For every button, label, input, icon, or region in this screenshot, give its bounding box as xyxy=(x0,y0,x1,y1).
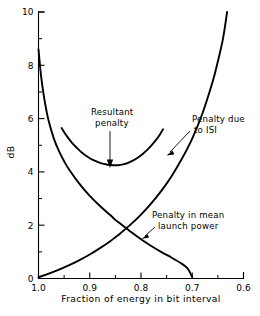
y-tick-label: 6 xyxy=(28,114,34,124)
penalty-vs-fraction-of-energy-chart: 0246810 1.00.90.80.70.6 dB Fraction of e… xyxy=(0,0,260,316)
annotation-penalty-due-to-isi-line2: to ISI xyxy=(194,125,217,135)
curve-penalty-due-to-isi xyxy=(39,12,228,277)
y-tick-label: 8 xyxy=(28,61,34,71)
annotation-penalty-in-mean-launch-power-line2: launch power xyxy=(158,221,219,231)
annotation-resultant-penalty: Resultant penalty xyxy=(91,107,134,168)
x-tick-label: 0.6 xyxy=(236,283,251,293)
x-tick-label: 0.8 xyxy=(134,283,149,293)
x-axis-title: Fraction of energy in bit interval xyxy=(61,293,220,304)
annotation-resultant-penalty-line1: Resultant xyxy=(91,107,134,117)
figure-container: 0246810 1.00.90.80.70.6 dB Fraction of e… xyxy=(0,0,260,316)
x-axis-ticks xyxy=(39,273,244,279)
y-tick-label: 10 xyxy=(22,7,34,17)
y-axis-tick-labels: 0246810 xyxy=(22,7,34,284)
y-tick-label: 4 xyxy=(28,167,34,177)
x-tick-label: 0.7 xyxy=(185,283,199,293)
annotation-penalty-due-to-isi: Penalty due to ISI xyxy=(167,114,245,156)
x-tick-label: 1.0 xyxy=(31,283,46,293)
penalty-in-mean-launch-power-arrow-head xyxy=(142,234,150,239)
x-axis-tick-labels: 1.00.90.80.70.6 xyxy=(31,283,251,293)
annotation-resultant-penalty-line2: penalty xyxy=(95,118,129,128)
annotation-penalty-due-to-isi-line1: Penalty due xyxy=(192,114,245,124)
annotation-penalty-in-mean-launch-power: Penalty in mean launch power xyxy=(142,210,225,239)
curve-penalty-in-mean-launch-power xyxy=(39,49,193,277)
y-axis-title: dB xyxy=(5,146,16,159)
x-tick-label: 0.9 xyxy=(83,283,98,293)
data-curves xyxy=(39,12,228,277)
annotation-penalty-in-mean-launch-power-line1: Penalty in mean xyxy=(152,210,224,220)
y-tick-label: 2 xyxy=(28,221,34,231)
penalty-in-mean-launch-power-leader-line xyxy=(145,227,155,236)
